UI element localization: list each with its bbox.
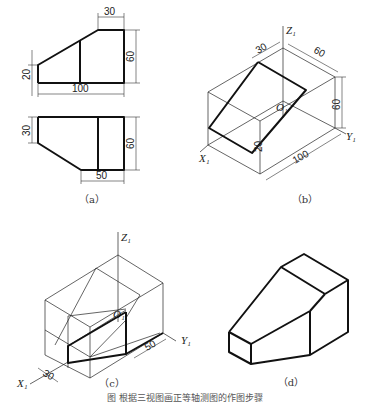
dim-60-height-b: 60 <box>331 98 342 110</box>
panel-a-label: （a） <box>79 194 105 205</box>
dim-30-top: 30 <box>21 124 32 136</box>
panel-a: 30 60 20 100 30 <box>21 6 140 205</box>
front-view: 30 60 20 100 <box>21 6 140 97</box>
dim-60-depth-b: 60 <box>312 44 328 59</box>
axis-y-c: Y₁ <box>181 334 191 346</box>
dim-50-c: 50 <box>143 337 159 352</box>
dim-30-c: 30 <box>41 367 57 382</box>
panel-b-label: （b） <box>292 194 318 205</box>
axis-x-c: X₁ <box>16 377 28 389</box>
dim-20-front: 20 <box>21 68 32 80</box>
dim-100-b: 100 <box>291 148 311 166</box>
panel-b: Z₁ X₁ Y₁ O₁ 30 60 60 100 20 （b） <box>198 24 356 205</box>
dim-50-top: 50 <box>96 170 108 181</box>
panel-c: Z₁ X₁ Y₁ O₁ 30 50 （c） <box>16 231 191 389</box>
dim-60-front: 60 <box>125 50 136 62</box>
dim-100-front: 100 <box>72 83 89 94</box>
axis-z-b: Z₁ <box>286 24 296 36</box>
figure-caption: 图 根据三视图画正等轴测图的作图步骤 <box>107 392 263 402</box>
top-view: 30 60 50 <box>21 117 140 184</box>
axis-y-b: Y₁ <box>346 130 356 142</box>
panel-d: （d） <box>229 254 348 388</box>
dim-20-b: 20 <box>253 140 264 152</box>
dim-30-front: 30 <box>104 6 116 17</box>
origin-b: O₁ <box>276 101 288 113</box>
axis-x-b: X₁ <box>198 152 210 164</box>
dim-60-top: 60 <box>125 137 136 149</box>
dim-30-b: 30 <box>254 40 270 55</box>
panel-c-label: （c） <box>99 378 125 389</box>
panel-d-label: （d） <box>278 377 304 388</box>
figure-canvas: 30 60 20 100 30 <box>0 0 370 402</box>
axis-z-c: Z₁ <box>121 231 131 243</box>
